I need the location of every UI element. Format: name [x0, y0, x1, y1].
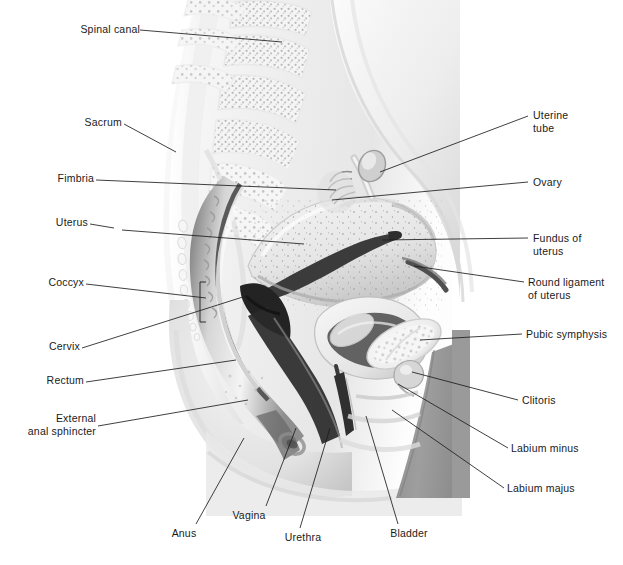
label-urethra: Urethra [272, 531, 334, 544]
label-sacrum: Sacrum [0, 116, 122, 129]
label-external-anal-sphincter: External anal sphincter [0, 412, 96, 437]
label-cervix: Cervix [0, 340, 80, 353]
label-fundus-of-uterus: Fundus of uterus [533, 232, 582, 257]
label-pubic-symphysis: Pubic symphysis [526, 328, 607, 341]
label-fimbria: Fimbria [0, 172, 94, 185]
label-rectum: Rectum [0, 374, 84, 387]
label-vagina: Vagina [220, 509, 278, 522]
label-spinal-canal: Spinal canal [0, 23, 140, 36]
label-coccyx: Coccyx [0, 276, 84, 289]
label-uterine-tube: Uterine tube [533, 109, 568, 134]
label-uterus: Uterus [0, 216, 88, 229]
label-clitoris: Clitoris [522, 394, 556, 407]
uterus-structure [248, 197, 442, 310]
label-ovary: Ovary [533, 176, 562, 189]
label-round-ligament-of-uterus: Round ligament of uterus [528, 276, 604, 301]
label-labium-majus: Labium majus [507, 482, 575, 495]
label-bladder: Bladder [378, 527, 440, 540]
label-labium-minus: Labium minus [511, 442, 579, 455]
label-anus: Anus [160, 527, 208, 540]
